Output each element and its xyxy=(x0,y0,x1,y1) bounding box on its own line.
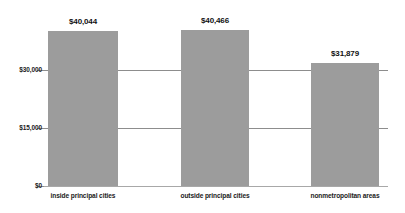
bar-value-label-nonmetropolitan-areas: $31,879 xyxy=(311,50,379,58)
bar-inside-principal-cities xyxy=(48,31,118,186)
x-axis-label-outside-principal-cities: outside principal cities xyxy=(165,193,265,200)
y-axis-tick-label-0: $0 xyxy=(35,183,42,190)
bar-value-label-inside-principal-cities: $40,044 xyxy=(48,18,118,26)
axis-baseline xyxy=(44,186,388,187)
x-axis-label-nonmetropolitan-areas: nonmetropolitan areas xyxy=(295,193,395,200)
x-axis-label-inside-principal-cities: inside principal cities xyxy=(33,193,133,200)
bar-nonmetropolitan-areas xyxy=(311,63,379,186)
bar-outside-principal-cities xyxy=(181,30,249,186)
bar-chart: $30,000 $15,000 $0 $40,044 $40,466 $31,8… xyxy=(0,0,405,213)
bar-value-label-outside-principal-cities: $40,466 xyxy=(181,17,249,25)
y-axis-tick-label-15000: $15,000 xyxy=(19,125,42,132)
plot-area: $30,000 $15,000 $0 $40,044 $40,466 $31,8… xyxy=(0,0,405,213)
y-axis-tick-label-30000: $30,000 xyxy=(19,67,42,74)
